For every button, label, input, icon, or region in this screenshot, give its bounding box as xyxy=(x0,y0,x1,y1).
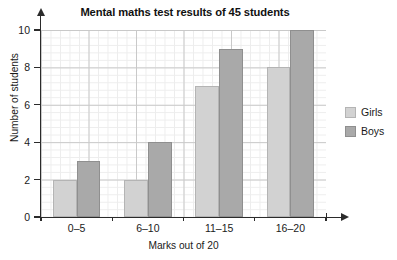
boys-swatch-icon xyxy=(345,126,356,137)
y-tick-mark: 6 xyxy=(34,104,41,105)
y-tick-label: 2 xyxy=(24,174,30,186)
y-tick-label: 4 xyxy=(24,136,30,148)
y-tick-mark: 10 xyxy=(34,29,41,30)
bar-boys-16-20 xyxy=(290,30,314,217)
x-category-label: 16–20 xyxy=(276,222,305,234)
legend-item-boys: Boys xyxy=(345,125,384,137)
bar-girls-16-20 xyxy=(267,67,291,217)
x-axis-title: Marks out of 20 xyxy=(41,240,326,251)
y-tick-label: 0 xyxy=(24,211,30,223)
plot-area xyxy=(41,30,326,217)
bar-boys-0-5 xyxy=(77,161,101,217)
y-tick-mark: 2 xyxy=(34,179,41,180)
y-axis-title: Number of students xyxy=(9,28,20,168)
legend-label: Boys xyxy=(361,125,384,137)
bar-chart-figure: Mental maths test results of 45 students… xyxy=(0,0,397,260)
x-category-label: 0–5 xyxy=(68,222,86,234)
arrow-right-icon xyxy=(341,213,349,221)
chart-legend: GirlsBoys xyxy=(345,106,384,137)
legend-label: Girls xyxy=(361,106,383,118)
y-tick-mark: 8 xyxy=(34,67,41,68)
y-tick-label: 10 xyxy=(18,24,30,36)
girls-swatch-icon xyxy=(345,107,356,118)
bar-boys-6-10 xyxy=(148,142,172,217)
y-tick-label: 8 xyxy=(24,61,30,73)
y-tick-label: 6 xyxy=(24,99,30,111)
bar-girls-11-15 xyxy=(195,86,219,217)
legend-item-girls: Girls xyxy=(345,106,384,118)
bar-girls-6-10 xyxy=(124,180,148,217)
y-tick-mark: 4 xyxy=(34,142,41,143)
bar-girls-0-5 xyxy=(53,180,77,217)
chart-title: Mental maths test results of 45 students xyxy=(60,6,310,18)
bar-boys-11-15 xyxy=(219,49,243,217)
x-category-label: 6–10 xyxy=(136,222,159,234)
x-category-label: 11–15 xyxy=(205,222,233,234)
